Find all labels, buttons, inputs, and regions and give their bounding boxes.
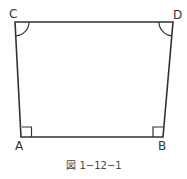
vertex-label-a: A bbox=[15, 139, 24, 153]
quadrilateral-diagram: C D A B 図 1−12−1 bbox=[0, 0, 187, 179]
vertex-label-c: C bbox=[9, 7, 17, 21]
figure-caption: 図 1−12−1 bbox=[66, 160, 121, 171]
right-angle-mark-a bbox=[22, 127, 32, 137]
angle-arc-d bbox=[159, 22, 172, 36]
vertex-label-d: D bbox=[173, 8, 182, 22]
quadrilateral-abdc bbox=[15, 22, 173, 137]
vertex-label-b: B bbox=[158, 139, 166, 153]
right-angle-mark-b bbox=[153, 127, 164, 137]
angle-arc-c bbox=[16, 22, 29, 36]
